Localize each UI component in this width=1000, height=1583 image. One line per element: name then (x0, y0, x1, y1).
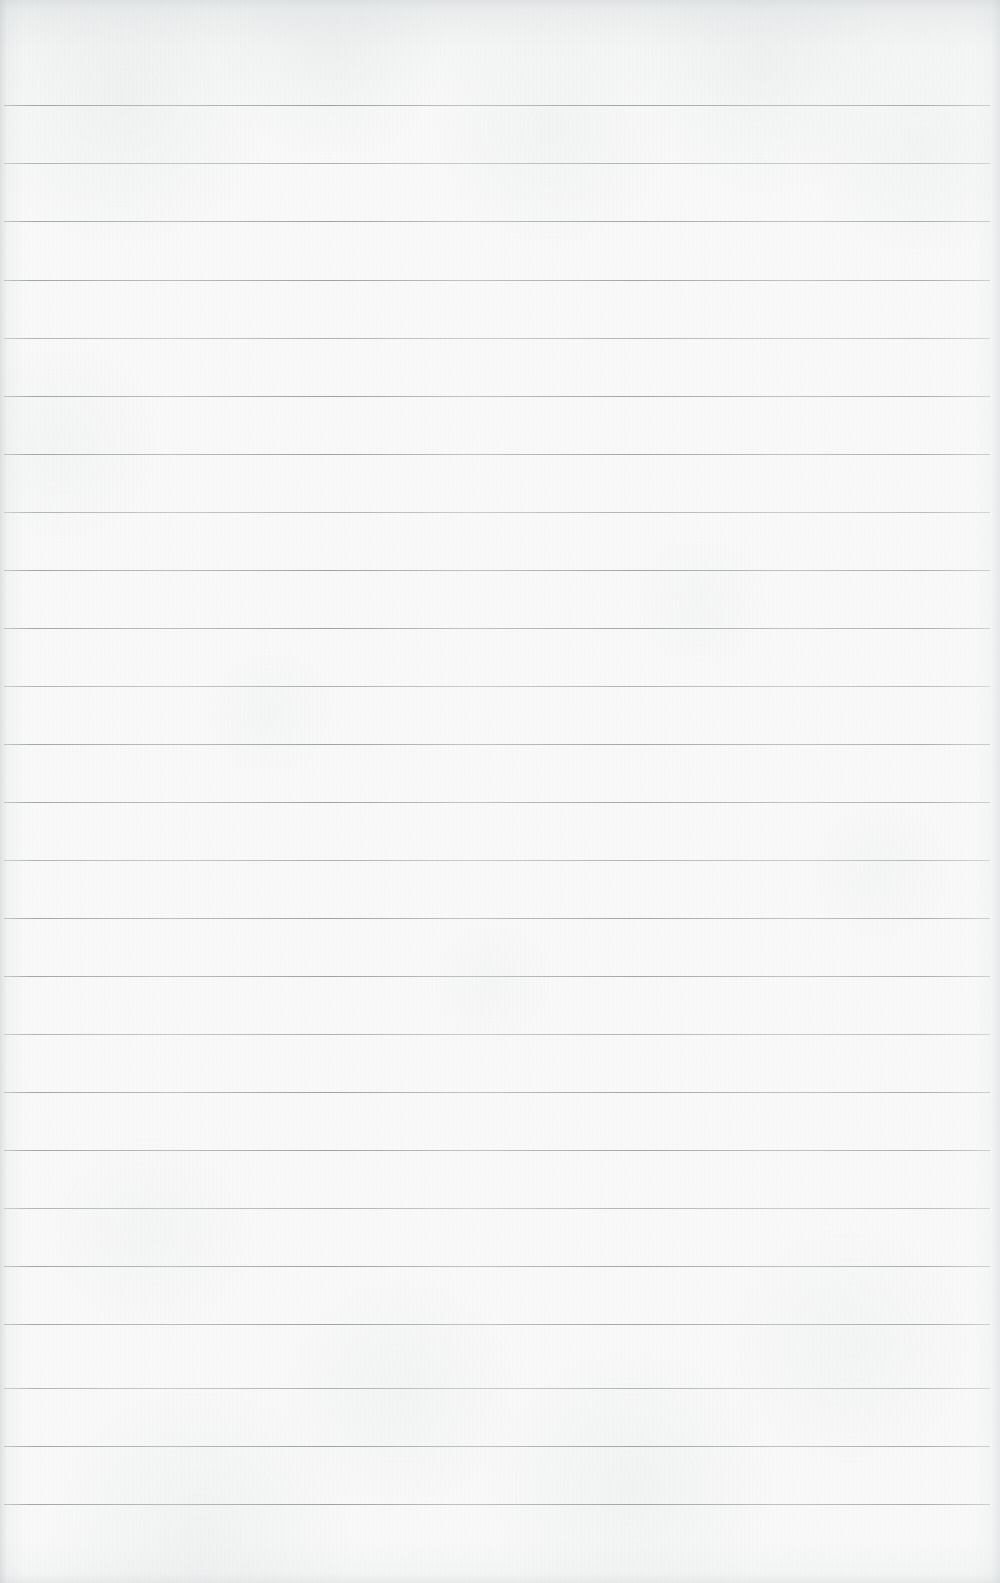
rule-line (4, 628, 990, 629)
ruled-lines-group (0, 0, 1000, 1583)
rule-line (4, 338, 990, 339)
rule-line (4, 396, 990, 397)
rule-line (4, 802, 990, 803)
rule-line (4, 1092, 990, 1093)
rule-line (4, 280, 990, 281)
rule-line (4, 454, 990, 455)
rule-line (4, 163, 990, 164)
rule-line (4, 1034, 990, 1035)
rule-line (4, 860, 990, 861)
rule-line (4, 105, 990, 106)
rule-line (4, 1324, 990, 1325)
rule-line (4, 221, 990, 222)
rule-line (4, 1388, 990, 1389)
rule-line (4, 570, 990, 571)
rule-line (4, 1446, 990, 1447)
rule-line (4, 686, 990, 687)
rule-line (4, 1504, 990, 1505)
rule-line (4, 918, 990, 919)
rule-line (4, 744, 990, 745)
rule-line (4, 512, 990, 513)
rule-line (4, 1208, 990, 1209)
rule-line (4, 976, 990, 977)
rule-line (4, 1266, 990, 1267)
rule-line (4, 1150, 990, 1151)
notebook-page (0, 0, 1000, 1583)
